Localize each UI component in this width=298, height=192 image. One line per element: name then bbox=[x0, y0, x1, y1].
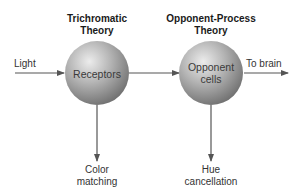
receptors-label: Receptors bbox=[62, 68, 132, 80]
title-line: Theory bbox=[57, 25, 137, 37]
title-line: Opponent-Process bbox=[156, 13, 266, 25]
to-brain-label: To brain bbox=[246, 58, 282, 70]
label-line: Hue bbox=[171, 164, 251, 176]
label-line: Color bbox=[62, 164, 132, 176]
title-line: Trichromatic bbox=[57, 13, 137, 25]
opponent-cells-label: Opponent cells bbox=[176, 61, 246, 85]
hue-cancellation-label: Hue cancellation bbox=[171, 164, 251, 188]
opponent-process-theory-title: Opponent-Process Theory bbox=[156, 13, 266, 37]
color-matching-label: Color matching bbox=[62, 164, 132, 188]
label-line: cancellation bbox=[171, 176, 251, 188]
title-line: Theory bbox=[156, 25, 266, 37]
label-line: matching bbox=[62, 176, 132, 188]
label-line: cells bbox=[176, 73, 246, 85]
light-label: Light bbox=[14, 58, 36, 70]
trichromatic-theory-title: Trichromatic Theory bbox=[57, 13, 137, 37]
label-line: Opponent bbox=[176, 61, 246, 73]
